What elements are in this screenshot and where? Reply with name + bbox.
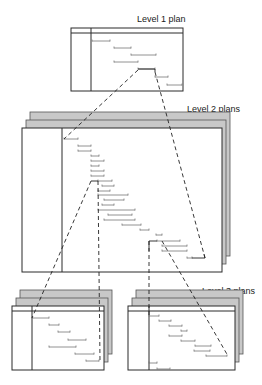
level-1-label: Level 1 plan: [137, 14, 186, 24]
level-1-plan-chart: [71, 28, 183, 91]
level3-right-frame: [128, 306, 235, 370]
level-3-plans-stack-right: [128, 290, 243, 370]
level-3-plans-stack-left: [12, 290, 112, 370]
planning-levels-diagram: Level 1 plan Level 2 plans Level 3 plans: [0, 0, 262, 385]
level3-left-frame: [12, 306, 104, 370]
level1-frame: [71, 28, 183, 91]
level-2-plans-stack: [22, 112, 230, 272]
